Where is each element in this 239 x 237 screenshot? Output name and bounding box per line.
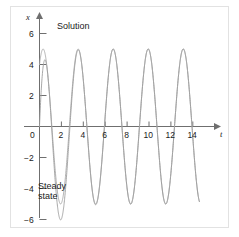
x-tick-label-12: 12	[166, 131, 175, 140]
y-tick-label-minus-2: −2	[24, 154, 34, 163]
y-tick-label-4: 4	[29, 61, 34, 70]
x-tick-label-4: 4	[80, 131, 85, 140]
x-tick-label-14: 14	[187, 131, 196, 140]
y-tick-label-minus-4: −4	[24, 185, 34, 194]
y-axis-label: x	[26, 13, 30, 22]
plot-area	[0, 0, 239, 237]
x-tick-label-10: 10	[144, 131, 153, 140]
x-axis-label: t	[220, 130, 222, 139]
x-tick-label-2: 2	[59, 131, 64, 140]
x-tick-label-0: 0	[30, 131, 35, 140]
annotation-solution: Solution	[57, 21, 90, 31]
y-tick-label-6: 6	[29, 30, 34, 39]
y-tick-label-minus-6: −6	[24, 216, 34, 225]
x-tick-label-6: 6	[102, 131, 107, 140]
figure-chart: x t 0 2 4 6 8 10 12 14 6 4 2 −2 −4 −6 So…	[0, 0, 239, 237]
x-tick-label-8: 8	[124, 131, 129, 140]
annotation-steady-state: Steady state	[38, 181, 80, 202]
y-tick-label-2: 2	[29, 92, 34, 101]
y-axis-arrow-icon	[36, 12, 43, 19]
x-axis-ticks	[61, 122, 192, 127]
